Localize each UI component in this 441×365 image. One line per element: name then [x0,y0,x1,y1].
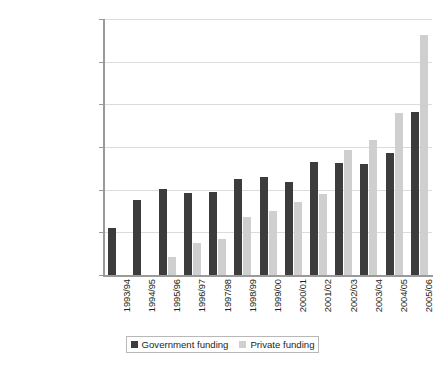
x-axis-tick: 1995/96 [154,277,179,337]
bar-group [407,19,432,275]
bar-private [243,217,251,275]
bar-government [285,182,293,275]
x-axis-tick: 2003/04 [356,277,381,337]
x-axis-tick: 2001/02 [306,277,331,337]
x-axis-tick: 2000/01 [281,277,306,337]
bar-group [331,19,356,275]
x-axis-tick: 1997/98 [205,277,230,337]
legend-item: Private funding [239,339,314,350]
bar-government [411,112,419,275]
bar-group [356,19,381,275]
x-axis-tick-label: 2005/06 [423,279,434,312]
bar-government [184,193,192,275]
x-axis-tick: 2002/03 [331,277,356,337]
legend-swatch [239,341,246,348]
bar-government [159,189,167,275]
bar-group [255,19,280,275]
bar-private [168,257,176,275]
bar-government [108,228,116,275]
bar-group [205,19,230,275]
bar-private [218,239,226,275]
x-axis-tick: 1993/94 [104,277,129,337]
x-axis-tick: 1994/95 [129,277,154,337]
legend-swatch [131,341,138,348]
bar-private [395,113,403,275]
bar-government [335,163,343,275]
bar-government [310,162,318,275]
bar-government [260,177,268,275]
bar-private [269,211,277,275]
bar-group [129,19,154,275]
bar-private [369,140,377,275]
bar-private [294,202,302,275]
bar-group [306,19,331,275]
x-axis-tick: 1999/00 [255,277,280,337]
bar-group [180,19,205,275]
bar-group [281,19,306,275]
bar-group [230,19,255,275]
bar-government [386,153,394,275]
bar-government [234,179,242,275]
legend-label: Government funding [142,339,229,350]
x-axis-tick: 2005/06 [407,277,432,337]
bar-group [154,19,179,275]
x-axis-tick: 1998/99 [230,277,255,337]
bar-private [193,243,201,275]
bar-group [382,19,407,275]
bar-government [209,192,217,275]
bar-chart: 010,000,000,00020,000,000,00030,000,000,… [0,0,441,365]
x-axis-labels: 1993/941994/951995/961996/971997/981998/… [104,277,432,337]
legend-item: Government funding [131,339,229,350]
bar-government [360,164,368,275]
x-axis-tick: 1996/97 [180,277,205,337]
bar-government [133,200,141,275]
bar-group [104,19,129,275]
plot-area [104,19,432,275]
bar-private [344,150,352,275]
bar-private [319,194,327,275]
bar-private [420,35,428,275]
chart-legend: Government fundingPrivate funding [126,336,319,353]
legend-label: Private funding [250,339,314,350]
x-axis-tick: 2004/05 [382,277,407,337]
